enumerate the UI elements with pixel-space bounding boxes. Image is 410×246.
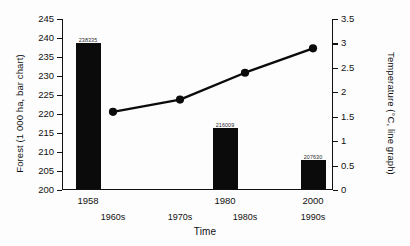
y-axis-left-tick-label: 230 <box>38 71 54 81</box>
tick-mark <box>57 190 62 191</box>
tick-mark <box>333 68 338 69</box>
y-axis-left-tick-label: 225 <box>38 90 54 100</box>
temperature-line-series <box>62 19 333 190</box>
line-marker <box>241 69 249 77</box>
y-axis-right-tick-label: 2.5 <box>341 63 354 73</box>
tick-mark <box>333 43 338 44</box>
y-axis-left-tick-label: 240 <box>38 33 54 43</box>
tick-mark <box>333 141 338 142</box>
x-axis-decade-label: 1970s <box>168 212 193 222</box>
tick-mark <box>333 190 338 191</box>
y-axis-right-tick-label: 3 <box>341 39 346 49</box>
x-axis-decade-label: 1960s <box>101 212 126 222</box>
y-axis-left-tick-label: 220 <box>38 109 54 119</box>
y-axis-right-tick-label: 1.5 <box>341 112 354 122</box>
tick-mark <box>333 166 338 167</box>
line-marker <box>309 44 317 52</box>
y-axis-right-tick-label: 0.5 <box>341 161 354 171</box>
x-axis-title: Time <box>0 226 410 237</box>
y-axis-left-tick-label: 235 <box>38 52 54 62</box>
y-axis-left-title: Forest (1 000 ha, bar chart) <box>14 29 25 199</box>
tick-mark <box>333 19 338 20</box>
y-axis-left-tick-label: 215 <box>38 128 54 138</box>
tick-mark <box>333 92 338 93</box>
y-axis-left-tick-label: 205 <box>38 166 54 176</box>
x-axis-decade-label: 1990s <box>301 212 326 222</box>
x-axis-year-label: 1958 <box>77 195 98 206</box>
x-axis-decade-label: 1980s <box>233 212 258 222</box>
plot-area: 245240235230225220215210205200 3.532.521… <box>62 19 333 190</box>
y-axis-right-title: Temperature (°C, line graph) <box>386 29 397 199</box>
y-axis-right-tick-label: 0 <box>341 185 346 195</box>
x-axis-year-label: 2000 <box>302 195 323 206</box>
x-axis-year-label: 1980 <box>214 195 235 206</box>
y-axis-right-tick-label: 1 <box>341 136 346 146</box>
y-axis-left-tick-label: 210 <box>38 147 54 157</box>
y-axis-right-tick-label: 3.5 <box>341 14 354 24</box>
tick-mark <box>333 117 338 118</box>
line-marker <box>109 108 117 116</box>
y-axis-left-tick-label: 200 <box>38 185 54 195</box>
line-marker <box>176 96 184 104</box>
temperature-line <box>113 48 313 112</box>
y-axis-left-tick-label: 245 <box>38 14 54 24</box>
chart-figure: Forest (1 000 ha, bar chart) Temperature… <box>0 0 410 246</box>
y-axis-right-tick-label: 2 <box>341 88 346 98</box>
